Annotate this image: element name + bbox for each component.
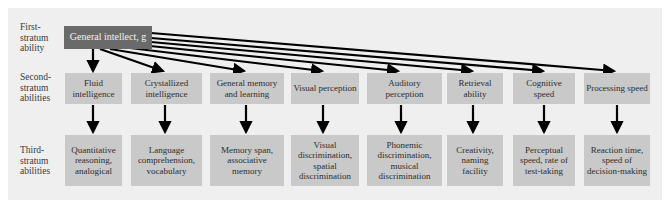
node-label: Auditory perception bbox=[369, 78, 440, 99]
node-general-memory: General memory and learning bbox=[210, 73, 284, 104]
node-visual-discrimination: Visual discrimination, spatial discrimin… bbox=[291, 135, 359, 186]
node-label: Quantitative reasoning, analogical bbox=[67, 145, 120, 177]
node-label: Perceptual speed, rate of test-taking bbox=[515, 145, 573, 177]
node-fluid-intelligence: Fluid intelligence bbox=[65, 73, 122, 104]
node-perceptual-speed: Perceptual speed, rate of test-taking bbox=[513, 135, 575, 186]
node-cognitive-speed: Cognitive speed bbox=[513, 73, 575, 104]
node-label: Creativity, naming facility bbox=[449, 145, 501, 177]
node-quantitative-reasoning: Quantitative reasoning, analogical bbox=[65, 135, 122, 186]
node-processing-speed: Processing speed bbox=[584, 73, 650, 104]
node-creativity: Creativity, naming facility bbox=[447, 135, 503, 186]
node-phonemic-discrimination: Phonemic discrimination, musical discrim… bbox=[367, 135, 442, 186]
node-label: Visual discrimination, spatial discrimin… bbox=[293, 140, 357, 182]
node-label: Phonemic discrimination, musical discrim… bbox=[369, 140, 440, 182]
node-reaction-time: Reaction time, speed of decision-making bbox=[584, 135, 650, 186]
node-label: General memory and learning bbox=[212, 78, 282, 99]
node-general-intellect: General intellect, g bbox=[64, 26, 152, 49]
node-label: Reaction time, speed of decision-making bbox=[586, 145, 648, 177]
node-label: Visual perception bbox=[293, 83, 356, 94]
node-label: Fluid intelligence bbox=[67, 78, 120, 99]
node-label: Cognitive speed bbox=[515, 78, 573, 99]
node-retrieval-ability: Retrieval ability bbox=[447, 73, 503, 104]
node-visual-perception: Visual perception bbox=[291, 73, 359, 104]
node-label: General intellect, g bbox=[70, 32, 146, 43]
node-memory-span: Memory span, associative memory bbox=[210, 135, 284, 186]
node-label: Memory span, associative memory bbox=[212, 145, 282, 177]
node-label: Processing speed bbox=[586, 83, 648, 94]
node-language-comprehension: Language comprehension, vocabulary bbox=[131, 135, 202, 186]
node-crystallized-intelligence: Crystallized intelligence bbox=[131, 73, 202, 104]
node-auditory-perception: Auditory perception bbox=[367, 73, 442, 104]
node-label: Crystallized intelligence bbox=[133, 78, 200, 99]
node-label: Language comprehension, vocabulary bbox=[133, 145, 200, 177]
node-label: Retrieval ability bbox=[449, 78, 501, 99]
